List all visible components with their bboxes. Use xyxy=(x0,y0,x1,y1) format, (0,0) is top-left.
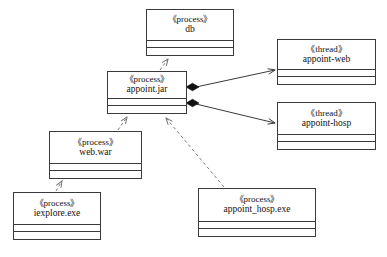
node-appoint-jar-header: 《process》 appoint.jar xyxy=(108,72,186,98)
node-appoint-hosp-exe-compartment-2 xyxy=(199,228,315,236)
node-appoint-web-stereotype: 《thread》 xyxy=(306,44,347,54)
edge-appointjar-appointweb xyxy=(186,70,275,91)
node-appoint-hosp[interactable]: 《thread》 appoint-hosp xyxy=(277,102,376,150)
node-appoint-web-name: appoint-web xyxy=(303,54,351,65)
node-web-war-name: web.war xyxy=(79,147,111,158)
node-appoint-jar-compartment-2 xyxy=(108,105,186,113)
node-appoint-jar[interactable]: 《process》 appoint.jar xyxy=(107,71,187,114)
node-appoint-hosp-stereotype: 《thread》 xyxy=(306,108,347,118)
node-appoint-web-header: 《thread》 appoint-web xyxy=(278,40,375,69)
node-appoint-hosp-exe[interactable]: 《process》 appoint_hosp.exe xyxy=(198,188,316,237)
node-iexplore-exe-name: iexplore.exe xyxy=(34,208,81,219)
node-appoint-web-compartment-2 xyxy=(278,76,375,84)
edge-appointjar-appointhosp xyxy=(186,99,275,123)
node-iexplore-exe[interactable]: 《process》 iexplore.exe xyxy=(13,192,101,240)
node-appoint-jar-compartment-1 xyxy=(108,98,186,105)
node-web-war[interactable]: 《process》 web.war xyxy=(49,131,142,179)
node-iexplore-exe-header: 《process》 iexplore.exe xyxy=(14,193,100,224)
node-appoint-hosp-exe-name: appoint_hosp.exe xyxy=(224,204,291,215)
edge-appointhospexe-appointjar xyxy=(166,118,224,187)
node-appoint-jar-stereotype: 《process》 xyxy=(125,74,170,84)
node-web-war-compartment-1 xyxy=(50,163,141,170)
node-appoint-hosp-compartment-1 xyxy=(278,134,375,141)
node-iexplore-exe-stereotype: 《process》 xyxy=(35,198,80,208)
edge-iexplore-webwar xyxy=(56,181,62,191)
node-appoint-hosp-header: 《thread》 appoint-hosp xyxy=(278,103,375,134)
node-db-compartment-1 xyxy=(147,40,233,47)
node-web-war-compartment-2 xyxy=(50,170,141,178)
node-appoint-hosp-exe-stereotype: 《process》 xyxy=(235,194,280,204)
node-appoint-web-compartment-1 xyxy=(278,69,375,76)
node-db-name: db xyxy=(185,24,195,35)
node-appoint-hosp-name: appoint-hosp xyxy=(302,118,352,129)
uml-deployment-diagram: appoint-web (composition, filled diamond… xyxy=(0,0,387,257)
node-iexplore-exe-compartment-2 xyxy=(14,231,100,239)
node-db-header: 《process》 db xyxy=(147,10,233,40)
node-web-war-stereotype: 《process》 xyxy=(73,137,118,147)
node-appoint-web[interactable]: 《thread》 appoint-web xyxy=(277,39,376,85)
node-appoint-hosp-compartment-2 xyxy=(278,141,375,149)
edge-webwar-appointjar xyxy=(118,117,127,130)
node-iexplore-exe-compartment-1 xyxy=(14,224,100,231)
node-web-war-header: 《process》 web.war xyxy=(50,132,141,163)
node-appoint-jar-name: appoint.jar xyxy=(127,84,168,95)
node-db-stereotype: 《process》 xyxy=(168,14,213,24)
node-appoint-hosp-exe-header: 《process》 appoint_hosp.exe xyxy=(199,189,315,221)
node-db-compartment-2 xyxy=(147,47,233,55)
node-db[interactable]: 《process》 db xyxy=(146,9,234,56)
edge-appointjar-db xyxy=(160,59,168,70)
node-appoint-hosp-exe-compartment-1 xyxy=(199,221,315,228)
